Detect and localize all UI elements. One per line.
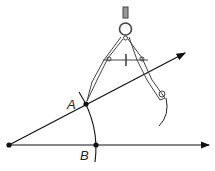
construction-diagram <box>0 0 215 171</box>
upper-ray <box>9 53 185 145</box>
point-a <box>83 101 88 106</box>
label-a: A <box>67 98 76 111</box>
compass-arc <box>159 98 167 126</box>
label-b: B <box>80 149 89 162</box>
point-origin <box>6 142 11 147</box>
compass-icon <box>87 7 165 101</box>
point-b <box>93 142 98 147</box>
